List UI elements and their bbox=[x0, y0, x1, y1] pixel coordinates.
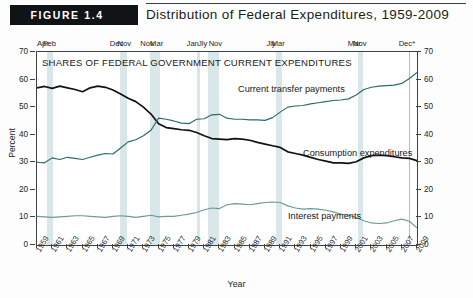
recession-month-label: Jly bbox=[198, 39, 207, 48]
y-axis-title: Percent bbox=[7, 120, 17, 166]
figure-badge-tail bbox=[124, 5, 138, 25]
series-label-transfer: Current transfer payments bbox=[238, 84, 345, 94]
y-tick-label-right: 30 bbox=[424, 157, 433, 166]
y-tick-label-right: 20 bbox=[424, 185, 433, 194]
y-tick-label-right: 40 bbox=[424, 130, 433, 139]
y-tick-mark bbox=[30, 216, 35, 217]
y-tick-label: 20 bbox=[12, 185, 28, 194]
series-label-interest: Interest payments bbox=[288, 211, 361, 221]
x-axis-title: Year bbox=[0, 279, 473, 289]
y-tick-label: 70 bbox=[12, 47, 28, 56]
recession-month-label: Nov bbox=[353, 39, 367, 48]
plot-subtitle: SHARES OF FEDERAL GOVERNMENT CURRENT EXP… bbox=[42, 57, 352, 68]
recession-month-label: Feb bbox=[43, 39, 56, 48]
y-tick-label: 10 bbox=[12, 212, 28, 221]
y-tick-mark-right bbox=[416, 79, 421, 80]
y-tick-mark bbox=[30, 134, 35, 135]
series-label-consumption: Consumption expenditures bbox=[303, 148, 412, 158]
y-tick-mark-right bbox=[416, 51, 421, 52]
y-tick-mark-right bbox=[416, 189, 421, 190]
y-tick-label: 60 bbox=[12, 75, 28, 84]
y-tick-mark bbox=[30, 79, 35, 80]
y-tick-mark bbox=[30, 51, 35, 52]
y-tick-mark bbox=[30, 106, 35, 107]
recession-month-label: Mar bbox=[150, 39, 163, 48]
recession-month-label: Nov bbox=[117, 39, 131, 48]
y-tick-label: 0 bbox=[12, 240, 28, 249]
y-tick-mark bbox=[30, 244, 35, 245]
y-tick-label-right: 50 bbox=[424, 102, 433, 111]
recession-month-label: Dec* bbox=[399, 39, 415, 48]
title-rule bbox=[146, 3, 466, 4]
y-tick-mark bbox=[30, 161, 35, 162]
figure-title: Distribution of Federal Expenditures, 19… bbox=[146, 7, 449, 22]
y-tick-label-right: 70 bbox=[424, 47, 433, 56]
y-tick-mark-right bbox=[416, 161, 421, 162]
y-tick-mark-right bbox=[416, 134, 421, 135]
figure-root: FIGURE 1.4 Distribution of Federal Expen… bbox=[0, 0, 473, 298]
y-tick-label: 50 bbox=[12, 102, 28, 111]
recession-month-label: Nov bbox=[209, 39, 223, 48]
y-tick-mark-right bbox=[416, 216, 421, 217]
y-tick-mark-right bbox=[416, 106, 421, 107]
y-tick-label-right: 60 bbox=[424, 75, 433, 84]
recession-month-label: Mar bbox=[272, 39, 285, 48]
figure-number-badge: FIGURE 1.4 bbox=[10, 5, 124, 25]
recession-month-label: Jan bbox=[187, 39, 199, 48]
y-tick-mark bbox=[30, 189, 35, 190]
y-tick-label-right: 10 bbox=[424, 212, 433, 221]
